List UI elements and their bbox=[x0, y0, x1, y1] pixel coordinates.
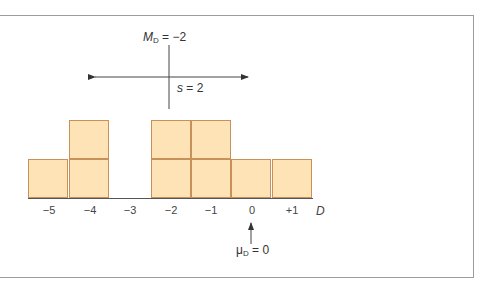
population-mean-label: μD = 0 bbox=[236, 243, 269, 258]
mu-value: = 0 bbox=[249, 243, 269, 257]
sd-value: = 2 bbox=[183, 81, 203, 95]
mu-symbol: μ bbox=[236, 243, 243, 257]
sd-label: s = 2 bbox=[177, 81, 203, 95]
mean-symbol: M bbox=[143, 30, 153, 44]
mean-value: = −2 bbox=[159, 30, 186, 44]
sample-mean-label: MD = −2 bbox=[143, 30, 186, 45]
